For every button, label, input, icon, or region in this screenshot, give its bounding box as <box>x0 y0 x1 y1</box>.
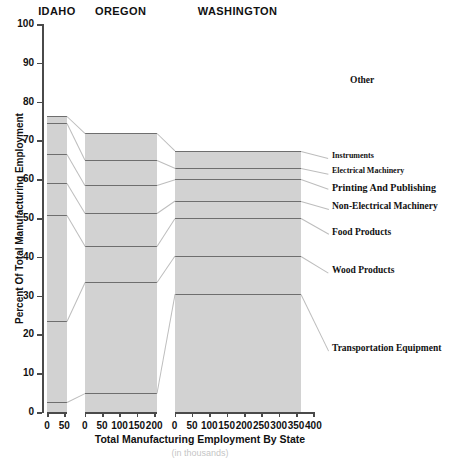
x-tick <box>279 412 281 417</box>
leader-line <box>300 218 328 234</box>
y-tick <box>37 412 42 414</box>
bar-segment[interactable] <box>47 215 67 321</box>
bar-oregon <box>85 24 157 412</box>
x-tick <box>227 412 229 417</box>
leader-line <box>300 201 328 210</box>
bar-segment[interactable] <box>47 154 67 183</box>
bar-segment[interactable] <box>85 160 157 185</box>
y-tick <box>37 373 42 375</box>
panel-connector-line <box>156 218 175 246</box>
y-tick-label: 60 <box>8 173 34 184</box>
bar-segment[interactable] <box>85 282 157 393</box>
bar-segment[interactable] <box>47 183 67 215</box>
y-tick-label: 40 <box>8 251 34 262</box>
x-tick <box>64 412 66 417</box>
bar-segment[interactable] <box>47 321 67 402</box>
x-axis-title: Total Manufacturing Employment By State <box>0 433 400 445</box>
category-label-instruments: Instruments <box>332 151 374 160</box>
bar-segment[interactable] <box>85 213 157 246</box>
panel-title-idaho: IDAHO <box>38 5 75 17</box>
bar-segment[interactable] <box>175 179 301 200</box>
x-tick-label: 400 <box>299 420 327 431</box>
bar-segment[interactable] <box>85 133 157 159</box>
y-tick-label: 100 <box>8 18 34 29</box>
bar-segment[interactable] <box>85 246 157 282</box>
panel-connector-line <box>66 282 85 321</box>
bar-segment[interactable] <box>85 393 157 412</box>
panel-connector-line <box>66 154 85 186</box>
category-label-non-electrical-machinery: Non-Electrical Machinery <box>332 201 438 211</box>
panel-connector-line <box>156 179 174 186</box>
category-label-wood-products: Wood Products <box>332 265 394 275</box>
x-tick <box>47 412 49 417</box>
y-tick <box>37 334 42 336</box>
panel-connector-line <box>67 393 85 403</box>
leader-line <box>300 179 328 190</box>
leader-line <box>300 256 328 274</box>
leader-line <box>300 294 328 351</box>
x-tick <box>119 412 121 417</box>
bar-segment[interactable] <box>175 218 301 256</box>
x-tick <box>192 412 194 417</box>
bar-segment[interactable] <box>47 24 67 116</box>
y-tick <box>37 218 42 220</box>
x-tick <box>154 412 156 417</box>
x-tick <box>313 412 315 417</box>
category-label-electrical-machinery: Electrical Machinery <box>332 166 404 175</box>
y-tick <box>37 102 42 104</box>
category-label-printing-and-publishing: Printing And Publishing <box>332 182 436 193</box>
x-tick <box>261 412 263 417</box>
panel-title-washington: WASHINGTON <box>198 5 278 17</box>
leader-line <box>300 151 328 159</box>
x-tick <box>102 412 104 417</box>
panel-connector-line <box>156 201 175 214</box>
bar-segment[interactable] <box>175 256 301 294</box>
panel-connector-line <box>66 116 85 134</box>
y-axis-line <box>42 24 44 413</box>
category-label-other: Other <box>350 75 374 85</box>
y-tick-label: 10 <box>8 367 34 378</box>
bar-segment[interactable] <box>175 24 301 151</box>
y-tick-label: 30 <box>8 290 34 301</box>
x-tick <box>85 412 87 417</box>
x-axis-subtitle: (in thousands) <box>0 448 400 458</box>
panel-connector-line <box>156 256 175 283</box>
y-tick-label: 90 <box>8 57 34 68</box>
panel-connector-line <box>66 183 85 213</box>
y-tick-label: 20 <box>8 328 34 339</box>
leader-line <box>300 168 328 175</box>
panel-connector-line <box>156 294 175 393</box>
bar-segment[interactable] <box>175 151 301 168</box>
panel-connector-line <box>66 216 85 247</box>
x-tick <box>296 412 298 417</box>
bar-segment[interactable] <box>85 185 157 213</box>
bar-segment[interactable] <box>175 168 301 180</box>
panel-connector-line <box>156 134 175 152</box>
x-tick <box>209 412 211 417</box>
category-label-food-products: Food Products <box>332 227 391 237</box>
y-tick-label: 80 <box>8 96 34 107</box>
y-tick-label: 50 <box>8 212 34 223</box>
bar-segment[interactable] <box>85 24 157 133</box>
panel-connector-line <box>66 123 85 160</box>
y-tick <box>37 24 42 26</box>
panel-title-oregon: OREGON <box>95 5 146 17</box>
bar-idaho <box>47 24 67 412</box>
x-tick <box>175 412 177 417</box>
bar-washington <box>175 24 301 412</box>
bar-segment[interactable] <box>47 116 67 123</box>
bar-segment[interactable] <box>47 402 67 412</box>
y-tick <box>37 296 42 298</box>
bar-segment[interactable] <box>175 294 301 412</box>
bar-segment[interactable] <box>47 123 67 154</box>
y-tick <box>37 140 42 142</box>
y-tick-label: 0 <box>8 406 34 417</box>
x-tick <box>244 412 246 417</box>
y-tick <box>37 63 42 65</box>
y-tick-label: 70 <box>8 134 34 145</box>
y-tick <box>37 179 42 181</box>
bar-segment[interactable] <box>175 201 301 218</box>
y-tick <box>37 257 42 259</box>
category-label-transportation-equipment: Transportation Equipment <box>332 343 441 353</box>
